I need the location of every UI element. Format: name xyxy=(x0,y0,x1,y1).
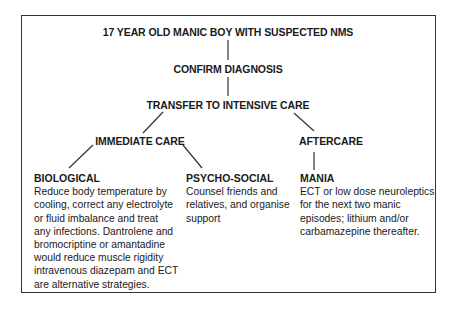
mania-text: ECT or low dose neuroleptics for the nex… xyxy=(300,185,434,238)
transfer-node: TRANSFER TO INTENSIVE CARE xyxy=(147,99,310,111)
mania-title: MANIA xyxy=(300,172,434,185)
immediate-care-node: IMMEDIATE CARE xyxy=(95,135,184,147)
aftercare-node: AFTERCARE xyxy=(299,135,363,147)
psychosocial-title: PSYCHO-SOCIAL xyxy=(186,172,290,185)
biological-text: Reduce body temperature by cooling, corr… xyxy=(34,185,178,291)
root-node: 17 YEAR OLD MANIC BOY WITH SUSPECTED NMS xyxy=(103,26,354,38)
psychosocial-text: Counsel friends and relatives, and organ… xyxy=(186,185,290,225)
connector-transfer-aftercare xyxy=(294,113,314,131)
biological-title: BIOLOGICAL xyxy=(34,172,178,185)
confirm-diagnosis-node: CONFIRM DIAGNOSIS xyxy=(173,63,282,75)
connector-immediate-biological xyxy=(69,145,93,168)
connector-immediate-psychosocial xyxy=(183,145,202,168)
biological-block: BIOLOGICAL Reduce body temperature by co… xyxy=(34,172,178,291)
mania-block: MANIA ECT or low dose neuroleptics for t… xyxy=(300,172,434,238)
connector-transfer-immediate xyxy=(143,112,163,133)
psychosocial-block: PSYCHO-SOCIAL Counsel friends and relati… xyxy=(186,172,290,225)
